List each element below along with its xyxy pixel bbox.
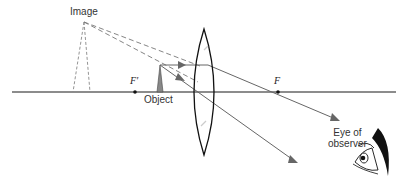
object-label: Object bbox=[144, 94, 173, 105]
focal-point-right bbox=[276, 90, 280, 94]
virtual-image bbox=[73, 22, 90, 92]
eye-label-line1: Eye of bbox=[328, 127, 367, 138]
image-label: Image bbox=[70, 6, 98, 17]
virtual-ray-extensions bbox=[84, 22, 200, 82]
eye-label-line2: observer bbox=[328, 138, 367, 149]
ray-diagram bbox=[0, 0, 402, 184]
object-arrow bbox=[157, 65, 163, 92]
focal-point-right-label: F bbox=[274, 75, 280, 86]
focal-point-left-label: F′ bbox=[130, 75, 138, 86]
ray-parallel bbox=[160, 61, 340, 121]
eye-label: Eye of observer bbox=[328, 127, 367, 149]
focal-point-left bbox=[133, 90, 137, 94]
